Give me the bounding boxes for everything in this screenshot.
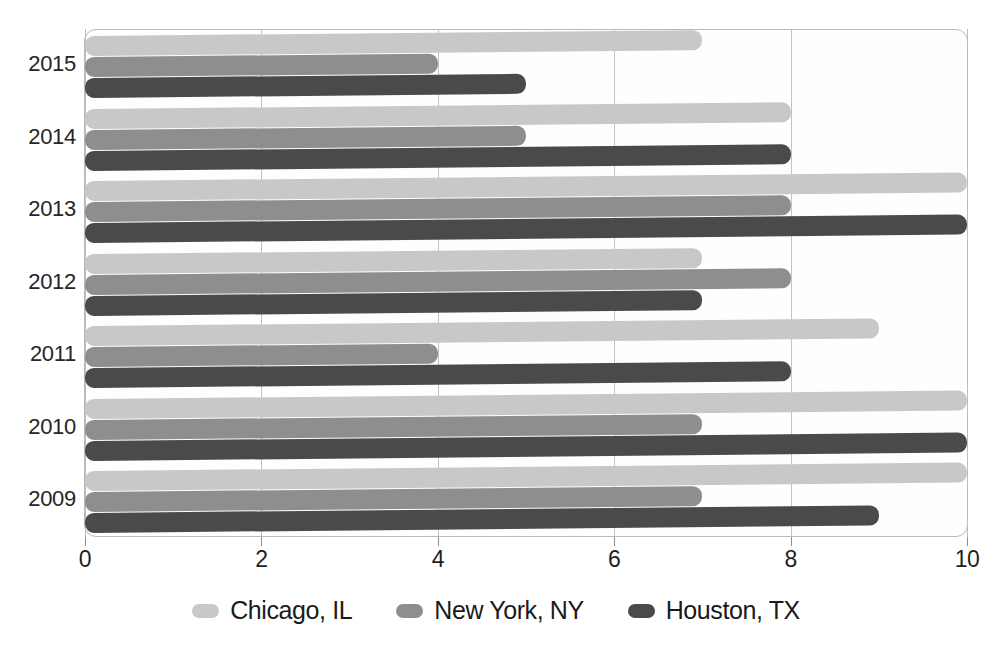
gridline-8 xyxy=(791,29,792,537)
y-axis-label-2015: 2015 xyxy=(18,51,76,77)
chart-title xyxy=(112,0,632,3)
y-axis-label-2014: 2014 xyxy=(18,124,76,150)
x-axis-label-0: 0 xyxy=(55,546,115,573)
y-axis-label-2010: 2010 xyxy=(18,414,76,440)
gridline-10 xyxy=(967,29,968,537)
legend-label: Chicago, IL xyxy=(230,596,352,625)
x-axis-tick-mark-6 xyxy=(614,537,615,546)
legend-item-houston-tx[interactable]: Houston, TX xyxy=(628,596,800,625)
x-axis-tick-mark-10 xyxy=(967,537,968,546)
legend-label: New York, NY xyxy=(434,596,583,625)
x-axis-label-10: 10 xyxy=(937,546,992,573)
x-axis-tick-mark-4 xyxy=(438,537,439,546)
x-axis-label-8: 8 xyxy=(761,546,821,573)
legend-label: Houston, TX xyxy=(666,596,800,625)
x-axis-tick-mark-0 xyxy=(85,537,86,546)
y-axis-label-2012: 2012 xyxy=(18,269,76,295)
x-axis-label-2: 2 xyxy=(231,546,291,573)
x-axis-label-6: 6 xyxy=(584,546,644,573)
x-axis-tick-mark-2 xyxy=(261,537,262,546)
chart-legend: Chicago, ILNew York, NYHouston, TX xyxy=(0,596,992,625)
bar-2011-new-york-ny xyxy=(85,344,438,367)
x-axis-tick-mark-8 xyxy=(791,537,792,546)
legend-swatch-icon xyxy=(628,604,655,618)
y-axis-label-2009: 2009 xyxy=(18,486,76,512)
bar-2015-new-york-ny xyxy=(85,54,438,77)
legend-swatch-icon xyxy=(396,604,423,618)
y-axis-label-2011: 2011 xyxy=(18,341,76,367)
legend-swatch-icon xyxy=(192,604,219,618)
bar-2014-new-york-ny xyxy=(85,125,526,149)
bar-2015-houston-tx xyxy=(85,74,526,98)
y-axis-label-2013: 2013 xyxy=(18,196,76,222)
x-axis-label-4: 4 xyxy=(408,546,468,573)
legend-item-chicago-il[interactable]: Chicago, IL xyxy=(192,596,352,625)
legend-item-new-york-ny[interactable]: New York, NY xyxy=(396,596,583,625)
